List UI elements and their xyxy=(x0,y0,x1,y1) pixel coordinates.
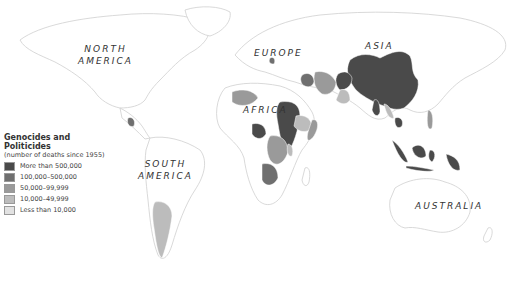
legend-items: More than 500,000 100,000–500,000 50,000… xyxy=(4,161,114,215)
country-iraq xyxy=(301,73,314,86)
legend-item: More than 500,000 xyxy=(4,161,114,171)
legend-swatch xyxy=(4,173,15,182)
country-cambodia xyxy=(395,117,403,127)
country-indonesia-papua xyxy=(446,154,460,170)
region-label-south-america: SOUTH AMERICA xyxy=(138,158,193,182)
legend-item: Less than 10,000 xyxy=(4,205,114,215)
region-label-europe: EUROPE xyxy=(254,47,303,59)
region-label-asia: ASIA xyxy=(365,40,394,52)
legend-label: More than 500,000 xyxy=(20,162,82,170)
legend-item: 50,000–99,999 xyxy=(4,183,114,193)
landmass-new-zealand xyxy=(483,228,492,242)
legend-label: 10,000–49,999 xyxy=(20,195,69,203)
legend-swatch xyxy=(4,206,15,215)
legend-item: 100,000–500,000 xyxy=(4,172,114,182)
legend-title: Genocides and Politicides xyxy=(4,133,114,151)
legend-item: 10,000–49,999 xyxy=(4,194,114,204)
region-label-africa: AFRICA xyxy=(243,104,288,116)
map-legend: Genocides and Politicides (number of dea… xyxy=(4,133,114,216)
landmass-africa xyxy=(217,83,315,204)
region-label-australia: AUSTRALIA xyxy=(415,200,483,212)
legend-label: Less than 10,000 xyxy=(20,206,76,214)
legend-swatch xyxy=(4,184,15,193)
country-indonesia-sulawesi xyxy=(429,150,435,162)
legend-swatch xyxy=(4,195,15,204)
country-indonesia-borneo xyxy=(412,145,426,158)
legend-label: 50,000–99,999 xyxy=(20,184,69,192)
country-indonesia-java xyxy=(406,166,434,171)
region-label-north-america: NORTH AMERICA xyxy=(78,43,133,67)
legend-label: 100,000–500,000 xyxy=(20,173,77,181)
country-philippines xyxy=(427,110,433,129)
landmass-south-america xyxy=(145,137,204,258)
landmass-central-america xyxy=(120,108,150,139)
landmass-madagascar xyxy=(302,168,310,186)
legend-subtitle: (number of deaths since 1955) xyxy=(4,151,114,159)
legend-swatch xyxy=(4,162,15,171)
country-indonesia-sumatra xyxy=(392,140,408,162)
